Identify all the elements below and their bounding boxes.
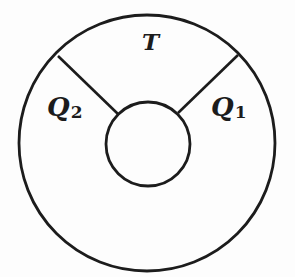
annulus-diagram: T Q2 Q1 <box>0 0 295 277</box>
region-label-q1-main: Q <box>211 92 234 122</box>
region-label-q1: Q1 <box>211 92 247 122</box>
inner-circle <box>106 102 190 186</box>
region-label-q1-subscript: 1 <box>235 102 247 122</box>
region-label-q2-main: Q <box>47 92 70 122</box>
diagram-canvas: T Q2 Q1 <box>0 0 295 277</box>
region-label-q2-subscript: 2 <box>71 102 83 122</box>
region-label-q2: Q2 <box>47 92 83 122</box>
region-label-t: T <box>142 28 161 55</box>
